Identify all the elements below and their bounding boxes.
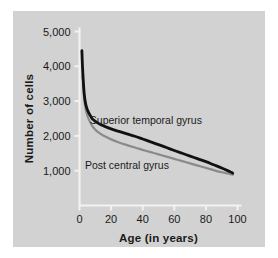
y-tick-label: 4,000: [43, 60, 71, 72]
y-axis-title: Number of cells: [23, 74, 35, 163]
y-tick-label: 2,000: [43, 130, 71, 142]
series-annotation-superior-temporal-gyrus: Superior temporal gyrus: [90, 114, 202, 126]
y-tick-label: 1,000: [43, 165, 71, 177]
x-tick-label: 60: [168, 213, 180, 225]
y-tick-label: 3,000: [43, 95, 71, 107]
y-tick-label: 5,000: [43, 26, 71, 38]
x-axis-title: Age (in years): [119, 232, 198, 244]
x-tick-label: 0: [76, 213, 82, 225]
x-tick-label: 100: [228, 213, 246, 225]
data-series-group: [82, 51, 233, 175]
figure-canvas: 1,0002,0003,0004,0005,000020406080100Sup…: [0, 0, 278, 258]
x-tick-label: 80: [200, 213, 212, 225]
axis-labels-group: 1,0002,0003,0004,0005,000020406080100Sup…: [23, 26, 247, 244]
x-tick-label: 20: [105, 213, 117, 225]
series-annotation-post-central-gyrus: Post central gyrus: [85, 159, 169, 171]
chart-plot: 1,0002,0003,0004,0005,000020406080100Sup…: [0, 0, 278, 258]
x-tick-label: 40: [137, 213, 149, 225]
